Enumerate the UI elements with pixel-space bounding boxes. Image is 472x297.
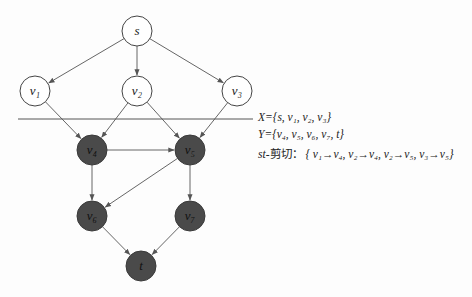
- legend-x-set: X={s, v₁, v₂, v₃}: [258, 111, 331, 123]
- edge-v2-v5: [147, 102, 179, 138]
- cut-prefix: st-: [258, 148, 270, 160]
- edge-v1-v4: [45, 102, 80, 139]
- node-t: t: [126, 251, 156, 281]
- node-v6: v₆: [77, 201, 107, 231]
- node-label: v₆: [87, 208, 97, 223]
- edge-v2-v4: [102, 103, 128, 137]
- edge-v6-t: [102, 227, 129, 255]
- legend-cut-edges: st-剪切： { v₁→v₄, v₂→v₄, v₂→v₅, v₃→v₅}: [258, 145, 454, 161]
- node-label: v₄: [87, 142, 98, 157]
- node-label: v₅: [185, 142, 195, 157]
- edge-s-v1: [49, 39, 124, 83]
- node-v4: v₄: [77, 135, 107, 165]
- node-s: s: [122, 16, 152, 46]
- node-label: v₃: [232, 83, 242, 98]
- cut-label: 剪切：: [270, 148, 303, 160]
- st-cut-diagram: sv₁v₂v₃v₄v₅v₆v₇t X={s, v₁, v₂, v₃} Y={v₄…: [0, 0, 472, 297]
- cut-edge-list: { v₁→v₄, v₂→v₄, v₂→v₅, v₃→v₅}: [305, 148, 453, 160]
- node-v3: v₃: [222, 76, 252, 106]
- edge-v5-v6: [105, 158, 177, 207]
- node-label: v₇: [185, 208, 196, 223]
- node-v5: v₅: [175, 135, 205, 165]
- edge-s-v3: [150, 39, 223, 83]
- edge-v3-v5: [200, 103, 228, 138]
- node-label: v₁: [30, 83, 40, 98]
- node-v1: v₁: [20, 76, 50, 106]
- node-label: t: [139, 258, 143, 273]
- legend-y-set: Y={v₄, v₅, v₆, v₇, t}: [258, 128, 344, 140]
- node-label: s: [134, 23, 139, 38]
- node-v7: v₇: [175, 201, 205, 231]
- edge-v7-t: [152, 227, 179, 255]
- node-label: v₂: [132, 83, 143, 98]
- node-v2: v₂: [122, 76, 152, 106]
